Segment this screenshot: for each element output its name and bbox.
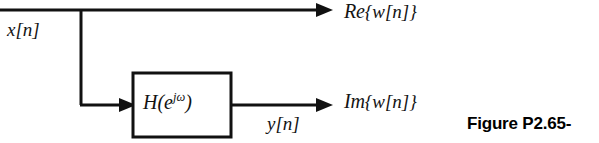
input-signal-label: x[n] [7,20,40,39]
input-wire-arrowhead [316,3,333,17]
output-imaginary-label: Im{w[n]} [344,91,417,111]
output-real-label: Re{w[n]} [344,1,417,21]
figure-caption: Figure P2.65- [467,115,571,132]
filter-block-label-exponent: jω [173,90,185,104]
figure-container: x[n] H(ejω) y[n] Re{w[n]} Im{w[n]} Figur… [0,0,599,143]
real-part-argument: {w[n]} [365,1,417,22]
filter-block-label: H(ejω) [143,91,192,112]
filter-block-label-close: ) [185,91,192,113]
imaginary-part-operator: Im [344,90,365,112]
filter-block-label-base: H(e [143,91,173,113]
block-output-arrowhead [316,98,333,112]
intermediate-signal-label: y[n] [267,114,300,133]
imaginary-part-argument: {w[n]} [365,91,417,112]
real-part-operator: Re [344,0,365,22]
